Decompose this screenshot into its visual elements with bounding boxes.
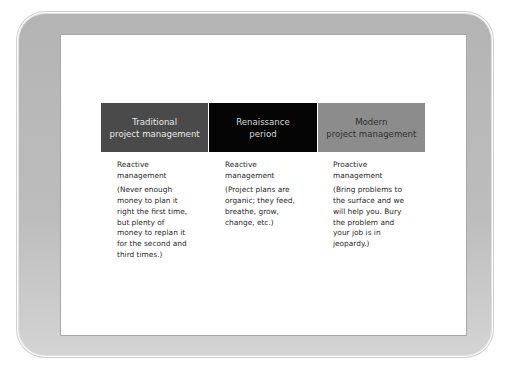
body-line: jeopardy.) bbox=[333, 239, 425, 250]
column-body: (Bring problems to the surface and we wi… bbox=[333, 185, 425, 249]
body-line: (Bring problems to bbox=[333, 185, 425, 196]
header-line: Modern bbox=[326, 116, 416, 128]
title-line: Reactive bbox=[117, 160, 209, 171]
header-line: project management bbox=[326, 128, 416, 140]
body-line: will help you. Bury bbox=[333, 207, 425, 218]
body-line: but plenty of bbox=[117, 218, 209, 229]
body-line: the surface and we bbox=[333, 196, 425, 207]
title-line: Proactive bbox=[333, 160, 425, 171]
header-line: period bbox=[236, 128, 290, 140]
body-line: organic; they feed, bbox=[225, 196, 317, 207]
header-line: Traditional bbox=[110, 116, 200, 128]
body-line: breathe, grow, bbox=[225, 207, 317, 218]
header-line: Renaissance bbox=[236, 116, 290, 128]
header-row: Traditional project management Renaissan… bbox=[101, 103, 425, 152]
body-line: (Never enough bbox=[117, 185, 209, 196]
body-line: your job is in bbox=[333, 228, 425, 239]
title-line: Reactive bbox=[225, 160, 317, 171]
title-line: management bbox=[333, 171, 425, 182]
header-renaissance: Renaissance period bbox=[209, 103, 316, 152]
column-renaissance: Reactive management (Project plans are o… bbox=[209, 160, 317, 260]
column-body: (Project plans are organic; they feed, b… bbox=[225, 185, 317, 228]
body-line: (Project plans are bbox=[225, 185, 317, 196]
body-line: change, etc.) bbox=[225, 218, 317, 229]
body-line: money to replan it bbox=[117, 228, 209, 239]
column-title: Reactive management bbox=[117, 160, 209, 181]
body-line: the problem and bbox=[333, 218, 425, 229]
title-line: management bbox=[117, 171, 209, 182]
content-row: Reactive management (Never enough money … bbox=[101, 160, 425, 260]
header-modern: Modern project management bbox=[318, 103, 425, 152]
column-body: (Never enough money to plan it right the… bbox=[117, 185, 209, 260]
body-line: third times.) bbox=[117, 250, 209, 261]
column-title: Proactive management bbox=[333, 160, 425, 181]
column-title: Reactive management bbox=[225, 160, 317, 181]
body-line: for the second and bbox=[117, 239, 209, 250]
title-line: management bbox=[225, 171, 317, 182]
header-line: project management bbox=[110, 128, 200, 140]
body-line: money to plan it bbox=[117, 196, 209, 207]
header-traditional: Traditional project management bbox=[101, 103, 208, 152]
column-modern: Proactive management (Bring problems to … bbox=[317, 160, 425, 260]
column-traditional: Reactive management (Never enough money … bbox=[101, 160, 209, 260]
body-line: right the first time, bbox=[117, 207, 209, 218]
